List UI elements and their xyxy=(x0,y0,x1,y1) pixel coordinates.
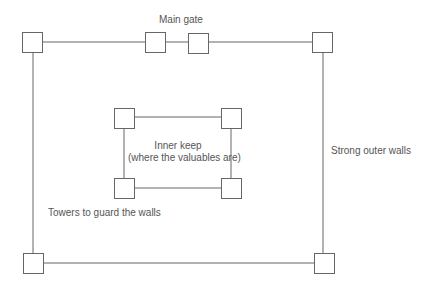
inner-keep-label: Inner keep (where the valuables are) xyxy=(128,140,228,164)
tower-outer-top-right xyxy=(313,33,333,53)
tower-outer-top-left xyxy=(23,33,43,53)
tower-inner-top-left xyxy=(115,109,135,129)
tower-inner-top-right xyxy=(222,109,242,129)
tower-inner-bottom-right xyxy=(222,179,242,199)
inner-keep-label-line2: (where the valuables are) xyxy=(128,152,228,164)
outer-walls-label: Strong outer walls xyxy=(331,145,411,157)
towers-label: Towers to guard the walls xyxy=(48,207,161,219)
inner-keep-label-line1: Inner keep xyxy=(128,140,228,152)
tower-gate-left xyxy=(146,33,166,53)
main-gate-label: Main gate xyxy=(159,14,203,26)
tower-outer-bottom-left xyxy=(24,254,44,274)
tower-outer-bottom-right xyxy=(315,254,335,274)
tower-gate-right xyxy=(189,34,209,54)
tower-inner-bottom-left xyxy=(115,179,135,199)
